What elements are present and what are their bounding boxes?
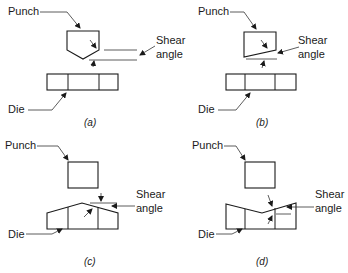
shear-angle-diagram: Punch Shear angle Die (a) Punch Shear an… <box>0 0 348 273</box>
punch-leader-arrow-icon <box>230 12 256 29</box>
angle-label: angle <box>156 48 183 60</box>
shear-label: Shear <box>315 188 345 200</box>
shear-leader-arrow-icon <box>278 47 299 53</box>
shear-label: Shear <box>298 34 328 46</box>
angle-label: angle <box>315 202 342 214</box>
die-leader-arrow-icon <box>216 229 242 234</box>
angle-label: angle <box>298 48 325 60</box>
die-label: Die <box>8 103 25 115</box>
die-leader-arrow-icon <box>28 93 66 110</box>
caption: (a) <box>84 117 96 128</box>
shear-label: Shear <box>136 188 166 200</box>
panel-c: Punch Shear angle Die (c) <box>5 139 166 267</box>
panel-d: Punch Shear angle Die (d) <box>192 139 345 267</box>
die-v-face <box>226 203 296 229</box>
angle-label: angle <box>136 202 163 214</box>
die-peaked-face <box>47 203 118 229</box>
angle-arrow-icon <box>268 195 272 206</box>
angle-arrow-icon <box>262 61 264 68</box>
punch-flat <box>68 162 98 188</box>
shear-leader-arrow-icon <box>140 46 155 55</box>
caption: (d) <box>256 256 268 267</box>
die-leader-arrow-icon <box>218 93 250 110</box>
die-label: Die <box>8 228 25 240</box>
punch-label: Punch <box>198 5 229 17</box>
die-label: Die <box>198 228 215 240</box>
punch-label: Punch <box>8 5 39 17</box>
die-body <box>47 74 118 90</box>
caption: (b) <box>256 117 268 128</box>
panel-a: Punch Shear angle Die (a) <box>8 5 186 128</box>
punch-leader-arrow-icon <box>224 146 245 160</box>
punch-label: Punch <box>192 139 223 151</box>
angle-arrow-icon <box>93 61 94 67</box>
punch-leader-arrow-icon <box>40 12 80 28</box>
die-label: Die <box>198 103 215 115</box>
punch-label: Punch <box>5 139 36 151</box>
punch-inclined-face <box>244 32 276 57</box>
shear-label: Shear <box>156 34 186 46</box>
caption: (c) <box>84 256 96 267</box>
punch-flat <box>245 162 275 188</box>
punch-leader-arrow-icon <box>37 146 68 160</box>
die-leader-arrow-icon <box>26 229 62 234</box>
panel-b: Punch Shear angle Die (b) <box>198 5 328 128</box>
die-body <box>226 74 296 90</box>
